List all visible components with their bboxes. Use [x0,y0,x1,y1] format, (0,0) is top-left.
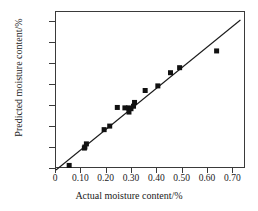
data-point-marker [115,105,120,110]
y-axis-label: Predicted moisture content/% [13,0,24,158]
data-point-marker [168,70,173,75]
data-point-marker [67,163,72,168]
data-point-marker [132,100,137,105]
data-point-marker [214,48,219,53]
data-point-marker [107,124,112,129]
plot-canvas [56,12,246,169]
data-point-marker [155,83,160,88]
x-axis-label: Actual moisture content/% [0,190,258,201]
plot-area [55,11,245,168]
data-markers [67,48,219,168]
data-point-marker [102,127,107,132]
x-tick-label: 0.70 [216,174,248,184]
scatter-chart: 00.100.200.300.400.500.600.70 00.100.200… [0,0,258,211]
data-point-marker [143,88,148,93]
data-point-marker [84,141,89,146]
data-point-marker [177,65,182,70]
